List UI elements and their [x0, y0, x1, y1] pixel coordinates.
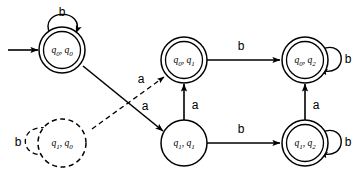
transition-label-q1q0-self-b: b	[15, 135, 22, 149]
automaton-canvas: b a a b b b a a b b	[0, 0, 359, 170]
transition-label-q1q1-q1q2-b: b	[238, 122, 245, 136]
state-node-q0q1[interactable]: q0, q1	[161, 37, 207, 83]
transition-label-q0q2-q1q2-a: a	[313, 98, 320, 112]
transition-q1q0-q0q1-a	[92, 77, 164, 129]
state-node-q0q0[interactable]: q0, q0	[39, 27, 85, 73]
transition-label-q0q2-self-b: b	[345, 52, 352, 66]
transition-label-q1q0-q0q1-a: a	[138, 72, 145, 86]
transition-label-q0q1-q0q2-b: b	[238, 39, 245, 53]
state-node-q1q0[interactable]: q1, q0	[38, 119, 86, 167]
transition-label-q0q0-q1q1-a: a	[142, 99, 149, 113]
automaton-diagram: b a a b b b a a b b	[0, 0, 359, 170]
transition-label-q0q1-q1q1-a: a	[192, 98, 199, 112]
state-node-q1q2[interactable]: q1, q2	[282, 120, 328, 166]
state-node-q0q2[interactable]: q0, q2	[282, 37, 328, 83]
transition-q0q0-q1q1-a	[83, 66, 163, 131]
transition-label-q0q0-self-b: b	[59, 5, 66, 19]
transition-label-q1q2-self-b: b	[345, 135, 352, 149]
state-node-q1q1[interactable]: q1, q1	[161, 120, 207, 166]
